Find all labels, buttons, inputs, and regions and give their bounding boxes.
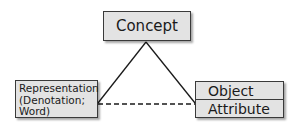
object-attribute-node: Object Attribute — [195, 81, 284, 118]
representation-line-3: Word) — [19, 106, 97, 118]
object-cell: Object — [196, 82, 283, 100]
representation-line-1: Representation — [19, 83, 97, 95]
concept-label: Concept — [116, 17, 178, 35]
edge-concept-object — [146, 42, 195, 103]
concept-node: Concept — [103, 11, 191, 41]
representation-node: Representation (Denotation; Word) — [15, 80, 98, 118]
attribute-cell: Attribute — [196, 100, 283, 118]
edge-concept-representation — [98, 42, 146, 103]
